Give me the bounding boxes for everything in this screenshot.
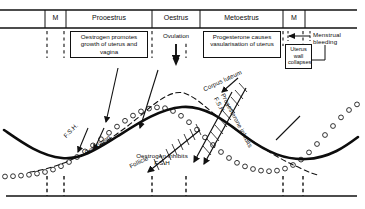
box-uterus-wall-collapses: Uterus wall collapses <box>285 44 312 69</box>
phase-label-oestrus: Oestrus <box>152 14 200 22</box>
box-ovulation: Ovulation <box>156 31 196 42</box>
curve-fsh <box>3 102 360 179</box>
uterus-wall-connector <box>312 45 325 60</box>
phase-label-m-right: M <box>283 14 305 22</box>
axis-tick-marks <box>47 176 303 196</box>
box-progesterone-causes: Progesterone causes vasularisation of ut… <box>203 31 281 58</box>
label-menstrual-bleeding: Menstrual bleeding <box>313 31 361 45</box>
phase-label-prooestrus: Prooestrus <box>66 14 152 22</box>
ovulation-arrow <box>173 44 180 66</box>
menstrual-bleeding-arrow <box>288 31 310 41</box>
diagram-root: M Prooestrus Oestrus Metoestrus M Oestro… <box>0 0 365 209</box>
box-oestrogen-promotes: Oestrogen promotes growth of uterus and … <box>70 31 148 58</box>
label-oestrogen-inhibits-fsh: Oestrogen inhibits F.S.H <box>132 152 192 166</box>
phase-label-m-left: M <box>45 14 66 22</box>
phase-label-metoestrus: Metoestrus <box>200 14 283 22</box>
